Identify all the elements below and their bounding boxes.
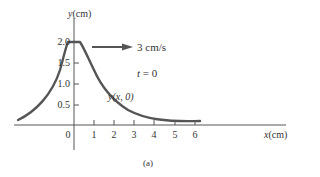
x-tick-label: 0 xyxy=(66,130,71,140)
x-tick-label: 2 xyxy=(112,130,117,140)
velocity-arrow-icon xyxy=(92,44,133,51)
y-ticks xyxy=(74,42,79,105)
y-tick-label: 1.5 xyxy=(46,58,70,68)
figure-caption: (a) xyxy=(143,159,153,168)
x-tick-label: 6 xyxy=(193,130,198,140)
time-label: t = 0 xyxy=(137,68,157,79)
x-tick-label: 1 xyxy=(92,130,97,140)
y-axis-label: y(cm) xyxy=(68,9,91,19)
x-axis-label-unit: (cm) xyxy=(268,129,287,140)
x-tick-label: 3 xyxy=(132,130,137,140)
curve-label-args: (x, 0) xyxy=(112,91,133,102)
time-value: = 0 xyxy=(140,67,157,79)
curve-label: y(x, 0) xyxy=(108,92,134,102)
y-axis-label-unit: (cm) xyxy=(72,8,91,19)
y-tick-label: 2.0 xyxy=(46,37,70,47)
y-tick-label: 1.0 xyxy=(46,79,70,89)
x-axis-label: x(cm) xyxy=(264,130,287,140)
velocity-label: 3 cm/s xyxy=(137,42,166,53)
y-tick-label: 0.5 xyxy=(46,100,70,110)
x-tick-label: 5 xyxy=(173,130,178,140)
x-tick-label: 4 xyxy=(152,130,157,140)
